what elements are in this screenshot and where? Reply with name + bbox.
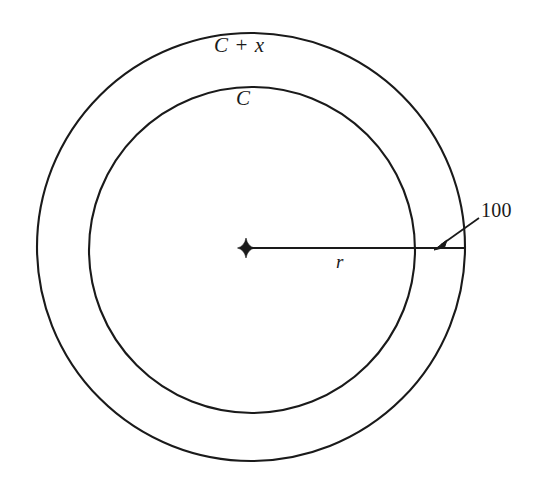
- center-star-icon: [238, 238, 255, 258]
- figure-canvas: C + x C r 100: [0, 0, 542, 486]
- inner-circle-label: C: [236, 88, 250, 109]
- radius-label: r: [336, 252, 343, 271]
- gap-measure-label: 100: [481, 200, 512, 220]
- concentric-circles-svg: [0, 0, 542, 486]
- outer-circle-label: C + x: [214, 35, 265, 56]
- inner-circle: [89, 87, 415, 413]
